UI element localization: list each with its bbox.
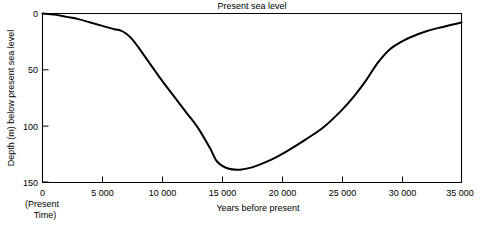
sea-level-depth-chart: Present sea level 0 50 100 150 0 5 000 1…	[0, 0, 482, 226]
origin-note-line1: (Present	[25, 199, 60, 209]
x-tick-label-5000: 5 000	[91, 188, 114, 198]
x-axis-ticks	[43, 177, 462, 183]
top-axis-label: Present sea level	[217, 1, 286, 11]
x-tick-label-30000: 30 000	[389, 188, 417, 198]
y-axis-title: Depth (m) below present sea level	[6, 30, 16, 167]
y-tick-label-0: 0	[33, 9, 38, 19]
x-tick-label-35000: 35 000	[446, 188, 474, 198]
x-tick-label-0: 0	[40, 188, 45, 198]
x-tick-label-25000: 25 000	[329, 188, 357, 198]
y-tick-label-100: 100	[23, 122, 38, 132]
x-tick-label-10000: 10 000	[149, 188, 177, 198]
x-tick-label-20000: 20 000	[269, 188, 297, 198]
y-tick-label-150: 150	[23, 178, 38, 188]
origin-note-line2: Time)	[34, 210, 57, 220]
y-axis-ticks	[43, 14, 49, 183]
sea-level-curve	[43, 14, 462, 170]
y-tick-label-50: 50	[28, 65, 38, 75]
x-tick-label-15000: 15 000	[209, 188, 237, 198]
chart-page: Present sea level 0 50 100 150 0 5 000 1…	[0, 0, 482, 226]
x-axis-title: Years before present	[216, 203, 300, 213]
